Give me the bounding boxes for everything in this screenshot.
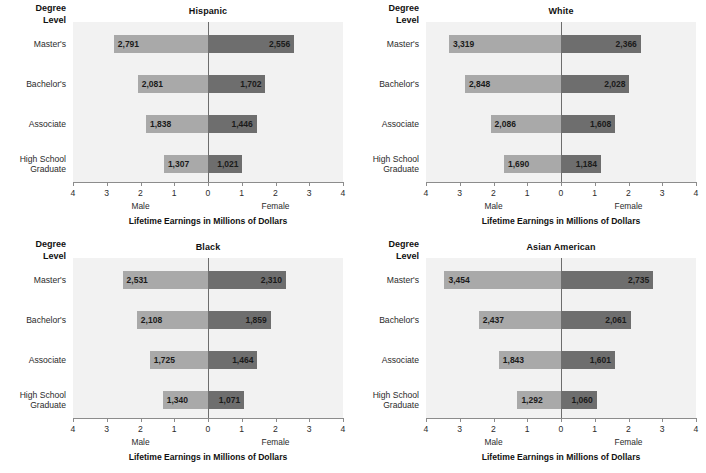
category-label: Bachelor's <box>353 79 419 90</box>
x-axis-tick-label: 3 <box>652 188 672 198</box>
x-axis-tick <box>141 418 142 422</box>
x-axis-tick <box>494 418 495 422</box>
x-axis-tick-label: 1 <box>232 424 252 434</box>
bar-row: 3,3192,366 <box>426 24 696 64</box>
bar-value-label: 2,086 <box>495 115 516 133</box>
male-side-label: Male <box>464 201 524 211</box>
category-label: High School Graduate <box>0 154 66 175</box>
bar-female: 1,184 <box>561 155 601 173</box>
degree-level-header: Degree Level <box>0 3 66 26</box>
bar-male: 1,690 <box>504 155 561 173</box>
bar-female: 1,464 <box>208 351 257 369</box>
bar-female: 1,446 <box>208 115 257 133</box>
x-axis-tick-label: 3 <box>450 188 470 198</box>
x-axis-tick-label: 3 <box>97 424 117 434</box>
bar-row: 2,1081,859 <box>73 300 343 340</box>
bar-row: 2,8482,028 <box>426 64 696 104</box>
x-axis-tick-label: 2 <box>266 424 286 434</box>
category-label: Master's <box>353 275 419 286</box>
x-axis-tick-label: 2 <box>131 188 151 198</box>
bar-value-label: 1,702 <box>240 75 261 93</box>
x-axis-tick <box>561 418 562 422</box>
x-axis-tick <box>662 182 663 186</box>
bar-value-label: 1,060 <box>571 391 592 409</box>
panel-title: Hispanic <box>73 6 343 16</box>
x-axis-tick-label: 4 <box>333 188 353 198</box>
female-side-label: Female <box>246 437 306 447</box>
bar-value-label: 1,184 <box>576 155 597 173</box>
x-axis-tick-label: 4 <box>333 424 353 434</box>
bar-female: 1,702 <box>208 75 265 93</box>
chart-panel-black: Degree LevelBlackMaster'sBachelor'sAssoc… <box>0 236 353 473</box>
bar-value-label: 2,310 <box>261 271 282 289</box>
bar-female: 2,028 <box>561 75 629 93</box>
category-label: Associate <box>353 119 419 130</box>
x-axis-tick-label: 1 <box>585 424 605 434</box>
female-side-label: Female <box>599 201 659 211</box>
bar-value-label: 1,838 <box>150 115 171 133</box>
x-axis-tick <box>276 182 277 186</box>
x-axis-tick <box>343 418 344 422</box>
bar-value-label: 2,735 <box>628 271 649 289</box>
category-label: High School Graduate <box>353 154 419 175</box>
bar-value-label: 1,340 <box>167 391 188 409</box>
bar-value-label: 1,859 <box>245 311 266 329</box>
plot-area: 3,4542,7352,4372,0611,8431,6011,2921,060 <box>426 258 696 418</box>
x-axis-tick <box>309 418 310 422</box>
x-axis-tick <box>527 182 528 186</box>
x-axis-tick <box>595 182 596 186</box>
x-axis-title: Lifetime Earnings in Millions of Dollars <box>426 216 696 226</box>
x-axis-tick <box>662 418 663 422</box>
x-axis-tick-label: 3 <box>652 424 672 434</box>
bar-row: 1,8431,601 <box>426 340 696 380</box>
category-label: Associate <box>353 355 419 366</box>
bar-value-label: 1,071 <box>219 391 240 409</box>
x-axis-tick <box>494 182 495 186</box>
bar-male: 2,108 <box>137 311 208 329</box>
bar-male: 1,725 <box>150 351 208 369</box>
bar-male: 1,307 <box>164 155 208 173</box>
x-axis-tick <box>460 418 461 422</box>
bar-male: 2,848 <box>465 75 561 93</box>
x-axis-tick <box>174 418 175 422</box>
bar-male: 2,086 <box>491 115 561 133</box>
panel-title: Asian American <box>426 242 696 252</box>
bar-value-label: 3,319 <box>453 35 474 53</box>
x-axis-tick <box>527 418 528 422</box>
bar-value-label: 2,081 <box>142 75 163 93</box>
bar-row: 1,6901,184 <box>426 144 696 184</box>
bar-value-label: 2,028 <box>604 75 625 93</box>
bar-row: 1,3071,021 <box>73 144 343 184</box>
bar-row: 1,2921,060 <box>426 380 696 420</box>
chart-grid: Degree LevelHispanicMaster'sBachelor'sAs… <box>0 0 706 473</box>
bar-row: 1,3401,071 <box>73 380 343 420</box>
category-label: Associate <box>0 119 66 130</box>
x-axis-tick <box>73 418 74 422</box>
category-label: Bachelor's <box>0 315 66 326</box>
x-axis-tick-label: 3 <box>299 424 319 434</box>
x-axis-tick-label: 1 <box>517 424 537 434</box>
x-axis-tick-label: 0 <box>198 424 218 434</box>
bar-value-label: 1,307 <box>168 155 189 173</box>
x-axis-title: Lifetime Earnings in Millions of Dollars <box>73 216 343 226</box>
bar-value-label: 1,446 <box>232 115 253 133</box>
bar-female: 1,601 <box>561 351 615 369</box>
bar-row: 2,5312,310 <box>73 260 343 300</box>
category-label: Master's <box>0 275 66 286</box>
bar-male: 1,843 <box>499 351 561 369</box>
bar-value-label: 3,454 <box>448 271 469 289</box>
x-axis-tick-label: 2 <box>484 188 504 198</box>
bar-female: 2,735 <box>561 271 653 289</box>
bar-female: 1,071 <box>208 391 244 409</box>
x-axis-tick <box>242 418 243 422</box>
bar-male: 2,081 <box>138 75 208 93</box>
bar-value-label: 1,725 <box>154 351 175 369</box>
x-axis-tick <box>629 182 630 186</box>
x-axis-tick <box>343 182 344 186</box>
bar-value-label: 2,848 <box>469 75 490 93</box>
category-label: Bachelor's <box>0 79 66 90</box>
x-axis-tick <box>208 418 209 422</box>
category-label: Associate <box>0 355 66 366</box>
plot-area: 3,3192,3662,8482,0282,0861,6081,6901,184 <box>426 22 696 182</box>
x-axis-tick <box>696 418 697 422</box>
